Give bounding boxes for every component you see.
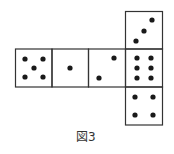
dots-row-1 [22,56,45,79]
dots-row-2 [67,65,72,70]
dots-top [133,17,154,43]
face-row-3 [89,49,126,87]
face-bottom [126,87,163,125]
dots-row-3 [96,55,116,80]
dots-bottom [132,94,155,117]
dots-row-4 [134,55,153,80]
figure-caption: 図3 [76,127,96,144]
face-row-4 [126,49,163,87]
